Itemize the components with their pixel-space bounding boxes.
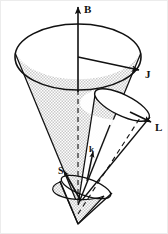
precession-cone-figure: B J L S k [0,0,168,234]
label-S: S [58,165,64,176]
cone-diagram-svg: B J L S k [0,0,168,234]
label-B: B [84,3,92,15]
label-J: J [145,68,151,80]
label-L: L [155,121,162,133]
label-k: k [89,144,94,154]
